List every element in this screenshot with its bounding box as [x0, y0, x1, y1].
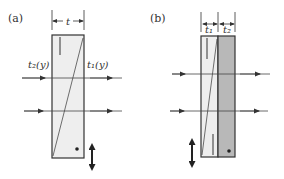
panel-b: (b) t₁ t₂	[150, 12, 270, 166]
panel-a-label: (a)	[8, 12, 23, 25]
optic-axis-marker-dot-a	[75, 147, 79, 151]
figure-canvas: (a) t t₂(y) t₁(y)	[0, 0, 284, 179]
thickness-label-t2: t₂	[223, 24, 231, 35]
panel-b-label: (b)	[150, 12, 166, 25]
thickness-dimension-b: t₁ t₂	[201, 12, 235, 35]
thickness-label-t1: t₁	[205, 24, 213, 35]
panel-a: (a) t t₂(y) t₁(y)	[8, 10, 122, 169]
label-t1-of-y: t₁(y)	[87, 59, 109, 70]
thickness-label-t: t	[66, 16, 71, 27]
optic-axis-marker-dot-b	[227, 149, 231, 153]
thickness-dimension-a: t	[52, 10, 84, 30]
compensator-plate-b	[218, 36, 235, 157]
label-t2-of-y: t₂(y)	[28, 59, 50, 70]
